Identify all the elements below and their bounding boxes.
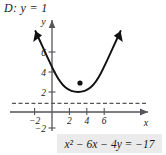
x-tick-label-6: 6 bbox=[102, 116, 107, 126]
parabola-figure: D: y = 1 −2 2 4 6 6 4 2 −2 x y bbox=[0, 0, 166, 155]
y-tick-label-2: 2 bbox=[41, 88, 46, 98]
x-tick-label-2: 2 bbox=[67, 116, 72, 126]
y-tick-label-neg2: −2 bbox=[35, 124, 46, 134]
y-tick-label-4: 4 bbox=[41, 68, 46, 78]
y-axis-label: y bbox=[40, 16, 46, 27]
focus-point bbox=[77, 80, 82, 85]
equation-callout-box: x² − 6x − 4y = −17 bbox=[57, 134, 162, 153]
graph-canvas: −2 2 4 6 6 4 2 −2 x y bbox=[0, 0, 166, 155]
y-axis-arrow-icon bbox=[49, 20, 56, 28]
directrix-equation-label: D: y = 1 bbox=[4, 1, 48, 16]
parabola-right-arrow-icon bbox=[114, 31, 123, 42]
x-tick-label-4: 4 bbox=[84, 116, 89, 126]
x-axis-label: x bbox=[143, 117, 149, 128]
x-axis-arrow-icon bbox=[140, 109, 148, 116]
equation-text: x² − 6x − 4y = −17 bbox=[64, 138, 154, 150]
